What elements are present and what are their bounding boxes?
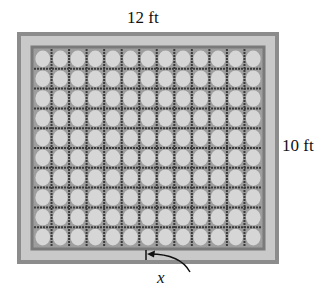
tile — [123, 70, 138, 87]
tile — [106, 169, 121, 186]
tile — [228, 70, 243, 87]
tile — [158, 169, 173, 186]
tile — [141, 70, 156, 87]
tile — [106, 51, 121, 68]
tile — [35, 229, 50, 246]
tile — [106, 209, 121, 226]
tile — [228, 51, 243, 68]
tile — [193, 169, 208, 186]
tile — [193, 90, 208, 107]
tile — [158, 70, 173, 87]
tile — [176, 169, 191, 186]
tile — [246, 189, 261, 206]
tile — [88, 209, 103, 226]
tile — [211, 189, 226, 206]
tile — [176, 51, 191, 68]
tile — [246, 70, 261, 87]
tile — [211, 209, 226, 226]
tile — [193, 150, 208, 167]
tile — [35, 189, 50, 206]
tile — [70, 189, 85, 206]
tile — [70, 169, 85, 186]
tile — [88, 169, 103, 186]
tile — [123, 229, 138, 246]
tile — [193, 51, 208, 68]
tile — [246, 150, 261, 167]
tile — [53, 70, 68, 87]
tile — [246, 229, 261, 246]
tile — [106, 70, 121, 87]
tile — [228, 209, 243, 226]
tile — [158, 110, 173, 127]
tile — [193, 209, 208, 226]
tile — [53, 189, 68, 206]
tile — [211, 150, 226, 167]
width-label: 12 ft — [127, 8, 159, 28]
tile — [193, 110, 208, 127]
height-label: 10 ft — [282, 136, 314, 156]
tile — [53, 229, 68, 246]
tile — [88, 51, 103, 68]
tile — [158, 51, 173, 68]
tile — [106, 90, 121, 107]
tile — [123, 110, 138, 127]
floor-diagram — [0, 0, 323, 299]
tile — [53, 130, 68, 147]
tile — [88, 130, 103, 147]
tile — [88, 90, 103, 107]
tile — [141, 51, 156, 68]
tile — [211, 169, 226, 186]
tile — [211, 130, 226, 147]
tile — [53, 90, 68, 107]
tile — [123, 169, 138, 186]
tile — [211, 90, 226, 107]
tile — [158, 150, 173, 167]
tile — [53, 150, 68, 167]
tile — [228, 90, 243, 107]
tile — [35, 169, 50, 186]
tile — [246, 130, 261, 147]
border-width-label: x — [157, 268, 165, 288]
tile — [70, 110, 85, 127]
tile — [176, 90, 191, 107]
tile — [35, 209, 50, 226]
tile — [246, 90, 261, 107]
tile — [193, 189, 208, 206]
tile — [141, 229, 156, 246]
tile — [176, 110, 191, 127]
tile — [35, 51, 50, 68]
tile — [88, 70, 103, 87]
tile — [35, 90, 50, 107]
tile — [106, 229, 121, 246]
tile — [123, 189, 138, 206]
tile — [228, 110, 243, 127]
tile — [141, 169, 156, 186]
tile — [246, 209, 261, 226]
tile — [176, 130, 191, 147]
tile — [228, 169, 243, 186]
tile — [158, 90, 173, 107]
tile — [228, 130, 243, 147]
tile — [228, 189, 243, 206]
tile — [158, 189, 173, 206]
tile — [193, 130, 208, 147]
tile — [123, 209, 138, 226]
tile — [158, 229, 173, 246]
tile — [123, 130, 138, 147]
tile — [35, 70, 50, 87]
tile — [193, 229, 208, 246]
tile — [176, 70, 191, 87]
tile — [211, 110, 226, 127]
tile — [141, 110, 156, 127]
tile — [246, 110, 261, 127]
tile — [53, 51, 68, 68]
tile — [211, 51, 226, 68]
tile — [70, 229, 85, 246]
tile — [88, 189, 103, 206]
tile — [88, 229, 103, 246]
tile — [158, 130, 173, 147]
tile — [176, 150, 191, 167]
tile — [141, 209, 156, 226]
tile — [106, 130, 121, 147]
tile — [35, 110, 50, 127]
